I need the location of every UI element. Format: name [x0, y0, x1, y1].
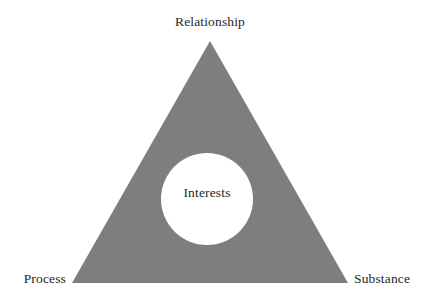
center-label-interests: Interests: [183, 186, 230, 200]
vertex-label-relationship: Relationship: [175, 15, 245, 29]
triangle-shape: [0, 0, 436, 304]
vertex-label-substance: Substance: [354, 272, 410, 286]
vertex-label-process: Process: [24, 272, 66, 286]
diagram-canvas: Relationship Process Substance Interests: [0, 0, 436, 304]
triangle-diagram-graphic: [0, 0, 436, 304]
